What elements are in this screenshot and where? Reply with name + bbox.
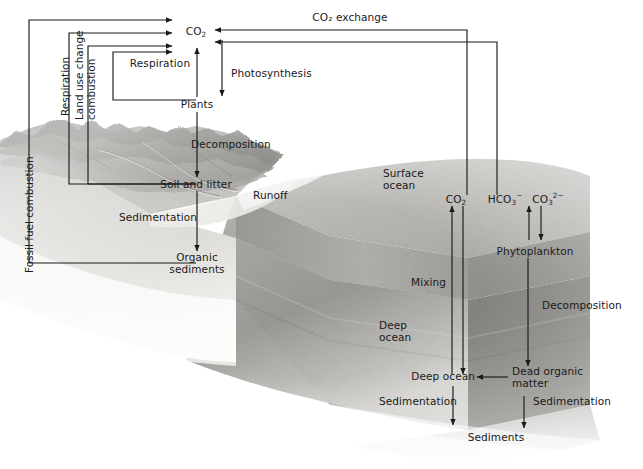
label-fossil-fuel-combustion: Fossil fuel combustion bbox=[24, 156, 36, 273]
label-bicarbonate: HCO3− bbox=[488, 194, 523, 206]
label-phytoplankton: Phytoplankton bbox=[497, 246, 574, 258]
label-plants: Plants bbox=[181, 99, 214, 111]
label-surface-ocean-line2: ocean bbox=[383, 180, 415, 192]
label-organic-sediments-line1: Organic bbox=[176, 252, 218, 264]
label-deep-ocean-pool: Deep ocean bbox=[411, 371, 475, 383]
label-deep-ocean-side-line2: ocean bbox=[379, 332, 411, 344]
label-land-use-change-line1: Land use change bbox=[74, 30, 86, 120]
label-sedimentation-land: Sedimentation bbox=[119, 212, 197, 224]
carbon-cycle-diagram: CO2 CO₂ exchange Respiration Photosynthe… bbox=[0, 0, 643, 469]
label-decomposition-land: Decomposition bbox=[191, 139, 271, 151]
label-organic-sediments-line2: sediments bbox=[169, 264, 224, 276]
label-deep-ocean-side-line1: Deep bbox=[379, 320, 407, 332]
label-photosynthesis: Photosynthesis bbox=[231, 68, 312, 80]
label-dead-organic-matter-line1: Dead organic bbox=[512, 366, 583, 378]
label-dead-organic-matter-line2: matter bbox=[512, 378, 548, 390]
label-co2-exchange: CO₂ exchange bbox=[312, 12, 387, 24]
label-soil-and-litter: Soil and litter bbox=[160, 179, 232, 191]
label-sediments: Sediments bbox=[468, 432, 525, 444]
label-runoff: Runoff bbox=[253, 190, 288, 202]
label-carbonate: CO32− bbox=[532, 194, 563, 206]
label-respiration-plants: Respiration bbox=[130, 58, 190, 70]
label-sedimentation-deep-right: Sedimentation bbox=[533, 396, 611, 408]
label-atmospheric-co2: CO2 bbox=[186, 26, 206, 38]
label-surface-ocean-line1: Surface bbox=[383, 168, 424, 180]
label-respiration-soil: Respiration bbox=[60, 57, 72, 116]
label-ocean-co2: CO2 bbox=[446, 194, 466, 206]
label-sedimentation-deep-left: Sedimentation bbox=[379, 396, 457, 408]
label-land-use-change-line2: combustion bbox=[86, 59, 98, 120]
label-decomposition-ocean: Decomposition bbox=[542, 300, 622, 312]
label-mixing: Mixing bbox=[411, 277, 446, 289]
